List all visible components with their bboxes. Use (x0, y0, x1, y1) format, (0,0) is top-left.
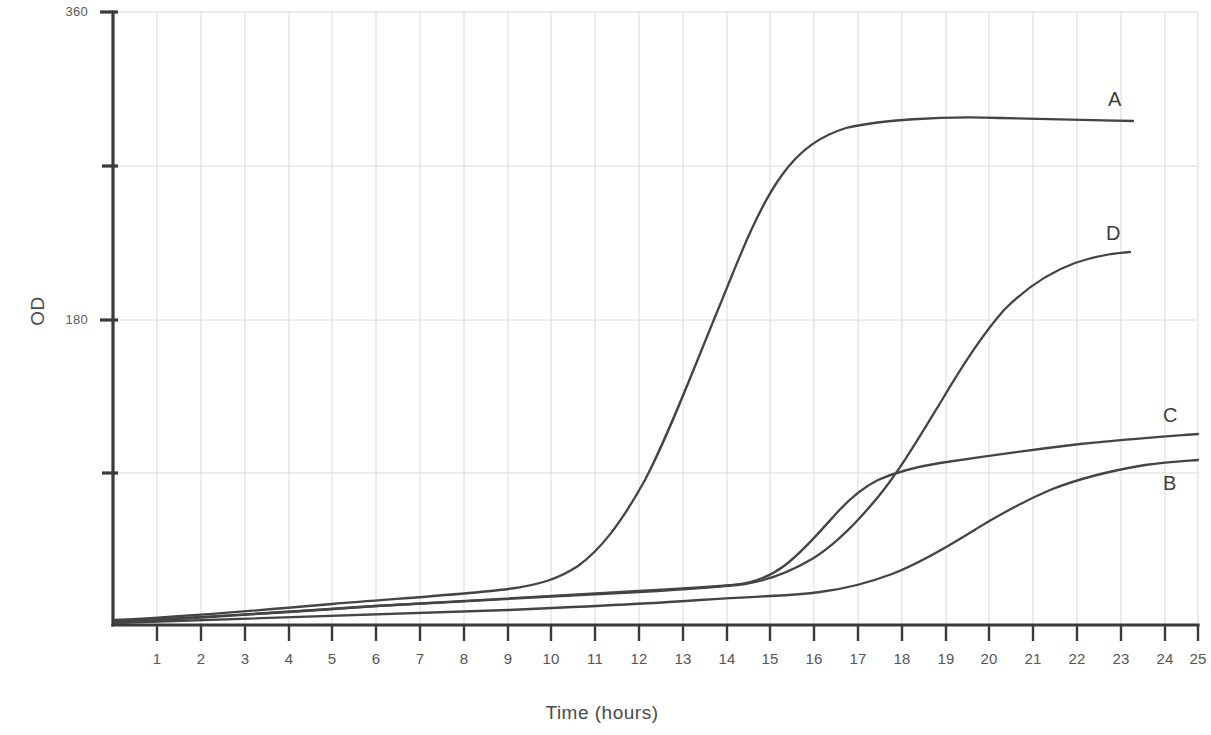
curve-label-b: B (1163, 472, 1177, 495)
y-axis-title: OD (27, 281, 49, 341)
x-tick-label-25: 25 (1183, 650, 1211, 667)
x-tick-label-5: 5 (317, 650, 347, 667)
x-axis-ticks (157, 625, 1198, 641)
x-tick-label-16: 16 (799, 650, 829, 667)
x-tick-label-1: 1 (142, 650, 172, 667)
x-tick-label-15: 15 (755, 650, 785, 667)
curve-d (115, 252, 1130, 622)
x-tick-label-3: 3 (230, 650, 260, 667)
x-tick-label-21: 21 (1018, 650, 1048, 667)
x-axis-title: Time (hours) (0, 702, 1204, 724)
curve-label-a: A (1108, 88, 1122, 111)
curve-label-d: D (1106, 222, 1121, 245)
x-tick-label-13: 13 (668, 650, 698, 667)
curve-c (115, 434, 1198, 621)
x-tick-label-6: 6 (361, 650, 391, 667)
x-tick-label-18: 18 (887, 650, 917, 667)
y-tick-label-180: 180 (40, 312, 88, 327)
x-tick-label-7: 7 (405, 650, 435, 667)
x-tick-label-23: 23 (1106, 650, 1136, 667)
curve-label-c: C (1163, 404, 1178, 427)
y-tick-label-360: 360 (40, 4, 88, 19)
y-axis-ticks (100, 12, 118, 473)
x-tick-label-24: 24 (1150, 650, 1180, 667)
axis-lines (113, 12, 1198, 625)
x-tick-label-19: 19 (931, 650, 961, 667)
x-tick-label-14: 14 (712, 650, 742, 667)
x-tick-label-2: 2 (186, 650, 216, 667)
curve-b (115, 460, 1198, 623)
x-tick-label-9: 9 (493, 650, 523, 667)
x-tick-label-11: 11 (580, 650, 610, 667)
x-tick-label-12: 12 (624, 650, 654, 667)
curve-a (115, 117, 1133, 620)
grid-lines-vertical (157, 12, 1198, 625)
x-tick-label-4: 4 (274, 650, 304, 667)
x-tick-label-8: 8 (449, 650, 479, 667)
grid-lines-horizontal (113, 12, 1198, 473)
x-tick-label-17: 17 (843, 650, 873, 667)
x-tick-label-22: 22 (1062, 650, 1092, 667)
x-tick-label-20: 20 (974, 650, 1004, 667)
x-tick-label-10: 10 (536, 650, 566, 667)
